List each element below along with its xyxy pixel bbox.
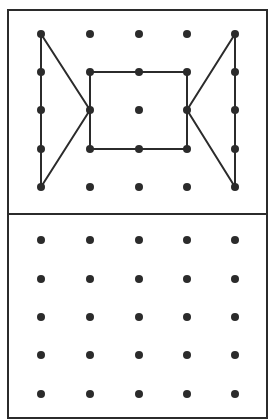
grid-dot (231, 145, 239, 153)
grid-dot (135, 236, 143, 244)
grid-dot (37, 313, 45, 321)
grid-dot (135, 183, 143, 191)
grid-dot (37, 390, 45, 398)
grid-dot (231, 313, 239, 321)
grid-dot (231, 390, 239, 398)
grid-dot (37, 275, 45, 283)
grid-dot (183, 275, 191, 283)
grid-dot (183, 30, 191, 38)
figure-segment (41, 110, 90, 187)
figure-segment (187, 34, 235, 110)
grid-dot (135, 313, 143, 321)
grid-dot (183, 351, 191, 359)
bottom-dot-grid (37, 236, 239, 398)
grid-dot (86, 145, 94, 153)
grid-dot (183, 313, 191, 321)
grid-dot (37, 30, 45, 38)
grid-dot (135, 30, 143, 38)
grid-dot (231, 236, 239, 244)
grid-dot (135, 275, 143, 283)
grid-dot (135, 145, 143, 153)
grid-dot (183, 68, 191, 76)
grid-dot (86, 351, 94, 359)
grid-dot (37, 68, 45, 76)
grid-dot (135, 351, 143, 359)
grid-dot (86, 390, 94, 398)
grid-dot (86, 275, 94, 283)
grid-dot (183, 390, 191, 398)
grid-dot (37, 183, 45, 191)
grid-dot (231, 68, 239, 76)
geoboard-diagram (0, 0, 273, 420)
grid-dot (231, 106, 239, 114)
grid-dot (231, 275, 239, 283)
figure-segment (187, 110, 235, 187)
grid-dot (183, 236, 191, 244)
grid-dot (37, 106, 45, 114)
grid-dot (86, 236, 94, 244)
grid-dot (86, 313, 94, 321)
grid-dot (231, 183, 239, 191)
grid-dot (86, 30, 94, 38)
grid-dot (183, 106, 191, 114)
grid-dot (86, 183, 94, 191)
grid-dot (86, 106, 94, 114)
grid-dot (183, 145, 191, 153)
top-dot-grid (37, 30, 239, 191)
grid-dot (231, 351, 239, 359)
grid-dot (37, 236, 45, 244)
grid-dot (231, 30, 239, 38)
figure-segment (41, 34, 90, 110)
grid-dot (135, 68, 143, 76)
grid-dot (37, 145, 45, 153)
grid-dot (37, 351, 45, 359)
grid-dot (135, 106, 143, 114)
grid-dot (135, 390, 143, 398)
grid-dot (183, 183, 191, 191)
grid-dot (86, 68, 94, 76)
